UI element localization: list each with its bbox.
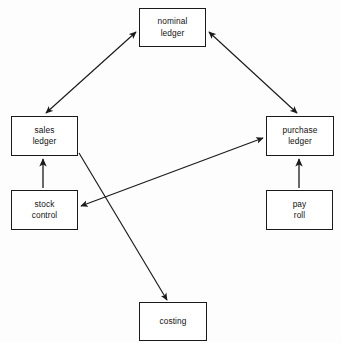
node-costing[interactable]: costing	[139, 302, 207, 341]
diagram-connectors-layer	[0, 0, 341, 343]
edge-sales-ledger-nominal-ledger	[46, 32, 136, 113]
node-label-line: control	[32, 210, 58, 221]
node-label-line: nominal	[158, 16, 188, 27]
node-label-line: sales	[35, 125, 55, 136]
node-pay-roll[interactable]: pay roll	[266, 190, 333, 230]
node-label-line: purchase	[283, 125, 318, 136]
node-sales-ledger[interactable]: sales ledger	[11, 116, 78, 156]
node-label-line: ledger	[33, 136, 57, 147]
node-purchase-ledger[interactable]: purchase ledger	[266, 116, 334, 156]
edge-stock-control-purchase-ledger	[81, 138, 263, 206]
node-label-line: stock	[35, 199, 55, 210]
node-label-line: roll	[294, 210, 305, 221]
node-label-line: pay	[293, 199, 307, 210]
node-label-line: costing	[160, 316, 187, 327]
node-nominal-ledger[interactable]: nominal ledger	[139, 8, 206, 47]
diagram-canvas: nominal ledger sales ledger purchase led…	[0, 0, 341, 343]
edge-nominal-ledger-purchase-ledger	[209, 32, 297, 113]
node-label-line: ledger	[161, 28, 185, 39]
edge-sales-ledger-costing	[79, 153, 167, 300]
node-label-line: ledger	[288, 136, 312, 147]
node-stock-control[interactable]: stock control	[11, 190, 78, 230]
